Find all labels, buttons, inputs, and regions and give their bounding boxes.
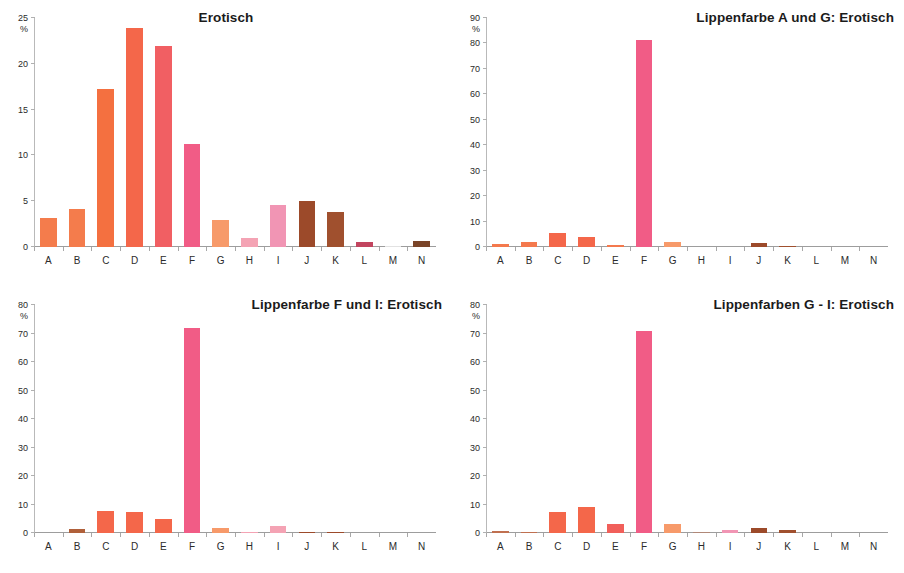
x-axis-tick-label: J bbox=[292, 253, 321, 269]
y-axis-tick-label: 80 bbox=[470, 39, 480, 48]
chart-panel-top-left: Erotisch0510152025%ABCDEFGHIJKLMN bbox=[0, 0, 452, 287]
x-axis-tick-mark bbox=[687, 533, 688, 537]
x-axis-tick-label: D bbox=[572, 539, 601, 555]
bar-slot bbox=[658, 305, 687, 533]
x-axis-tick-label: C bbox=[91, 253, 120, 269]
x-axis-tick-label: A bbox=[486, 539, 515, 555]
x-axis-tick-mark bbox=[321, 247, 322, 251]
x-axis-tick-mark bbox=[407, 247, 408, 251]
x-axis-tick-mark bbox=[831, 247, 832, 251]
bar-slot bbox=[34, 18, 63, 247]
y-axis-tick-label: 50 bbox=[470, 386, 480, 395]
bar-slot bbox=[206, 305, 235, 533]
x-axis-tick-label: I bbox=[716, 253, 745, 269]
x-axis-tick-mark bbox=[859, 247, 860, 251]
bar-slot bbox=[744, 305, 773, 533]
x-axis-tick-label: H bbox=[235, 253, 264, 269]
x-axis-tick-mark bbox=[178, 533, 179, 537]
plot-area: 0102030405060708090% bbox=[486, 18, 888, 247]
y-axis-tick-label: 0 bbox=[23, 529, 28, 538]
x-axis-labels: ABCDEFGHIJKLMN bbox=[486, 253, 888, 269]
chart-grid: Erotisch0510152025%ABCDEFGHIJKLMN Lippen… bbox=[0, 0, 904, 573]
x-axis-tick-label: F bbox=[178, 539, 207, 555]
bar-slot bbox=[515, 305, 544, 533]
bar-F bbox=[636, 40, 653, 247]
y-axis-tick-label: 40 bbox=[470, 415, 480, 424]
bar-slot bbox=[859, 305, 888, 533]
bar-B bbox=[521, 532, 538, 533]
bar-slot bbox=[572, 18, 601, 247]
y-axis-tick-label: 30 bbox=[470, 443, 480, 452]
bar-C bbox=[97, 511, 114, 534]
y-axis-tick-label: 10 bbox=[18, 151, 28, 160]
x-axis-tick-label: D bbox=[572, 253, 601, 269]
bar-I bbox=[270, 526, 287, 533]
y-axis-tick-label: 20 bbox=[470, 192, 480, 201]
x-axis-tick-mark bbox=[235, 533, 236, 537]
bar-slot bbox=[321, 18, 350, 247]
x-axis-tick-label: A bbox=[486, 253, 515, 269]
y-axis-tick-label: 70 bbox=[470, 329, 480, 338]
bar-slot bbox=[744, 18, 773, 247]
bar-slot bbox=[716, 18, 745, 247]
y-axis-tick-label: 70 bbox=[470, 64, 480, 73]
bar-slot bbox=[716, 305, 745, 533]
x-axis-tick-label: B bbox=[515, 253, 544, 269]
x-axis-tick-label: D bbox=[120, 539, 149, 555]
bar-slot bbox=[235, 305, 264, 533]
x-axis-tick-mark bbox=[486, 533, 487, 537]
bar-series bbox=[34, 18, 436, 247]
x-axis-tick-mark bbox=[658, 247, 659, 251]
y-axis-tick-label: 60 bbox=[18, 358, 28, 367]
bar-J bbox=[751, 528, 768, 533]
bar-slot bbox=[543, 18, 572, 247]
bar-slot bbox=[572, 305, 601, 533]
x-axis-tick-label: C bbox=[543, 253, 572, 269]
x-axis-tick-mark bbox=[235, 247, 236, 251]
x-axis-tick-mark bbox=[34, 247, 35, 251]
x-axis-tick-label: N bbox=[859, 253, 888, 269]
x-axis-tick-label: J bbox=[744, 253, 773, 269]
x-axis-tick-label: N bbox=[859, 539, 888, 555]
x-axis-tick-mark bbox=[292, 247, 293, 251]
x-axis-tick-label: J bbox=[292, 539, 321, 555]
x-axis-tick-mark bbox=[91, 247, 92, 251]
x-axis-tick-label: E bbox=[601, 253, 630, 269]
bar-H bbox=[241, 238, 258, 247]
x-axis-tick-label: L bbox=[802, 253, 831, 269]
x-axis-tick-label: L bbox=[802, 539, 831, 555]
x-axis-tick-mark bbox=[91, 533, 92, 537]
bar-C bbox=[549, 512, 566, 533]
x-axis-tick-mark bbox=[716, 533, 717, 537]
bar-slot bbox=[630, 305, 659, 533]
x-axis-tick-label: F bbox=[178, 253, 207, 269]
bar-B bbox=[69, 529, 86, 533]
bar-slot bbox=[235, 18, 264, 247]
x-axis-tick-mark bbox=[543, 247, 544, 251]
bar-slot bbox=[264, 18, 293, 247]
bar-slot bbox=[802, 305, 831, 533]
bar-A bbox=[492, 531, 509, 533]
x-axis-tick-mark bbox=[120, 533, 121, 537]
x-axis-tick-mark bbox=[292, 533, 293, 537]
x-axis-tick-label: L bbox=[350, 253, 379, 269]
bar-K bbox=[327, 532, 344, 533]
bar-slot bbox=[321, 305, 350, 533]
x-axis-tick-mark bbox=[630, 247, 631, 251]
x-axis-tick-label: L bbox=[350, 539, 379, 555]
x-axis-tick-mark bbox=[407, 533, 408, 537]
bar-slot bbox=[292, 18, 321, 247]
y-axis-tick-label: 20 bbox=[18, 472, 28, 481]
bar-D bbox=[578, 507, 595, 533]
bar-slot bbox=[543, 305, 572, 533]
x-axis-tick-mark bbox=[744, 247, 745, 251]
y-axis-tick-label: 0 bbox=[475, 243, 480, 252]
x-axis-tick-mark bbox=[206, 533, 207, 537]
bar-slot bbox=[687, 18, 716, 247]
y-axis-unit-label: % bbox=[20, 25, 28, 34]
x-axis-tick-mark bbox=[264, 247, 265, 251]
x-axis-tick-label: M bbox=[831, 253, 860, 269]
chart-title: Lippenfarben G - I: Erotisch bbox=[713, 297, 894, 312]
bar-slot bbox=[63, 305, 92, 533]
bar-slot bbox=[831, 18, 860, 247]
